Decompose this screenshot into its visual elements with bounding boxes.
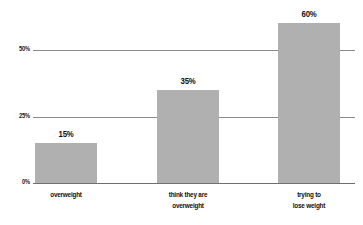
axis-baseline	[33, 183, 355, 184]
plot-area: 50% 25% 0% 15% 35% 60% overweight think …	[0, 0, 363, 225]
bar-chart: 50% 25% 0% 15% 35% 60% overweight think …	[0, 0, 363, 225]
bar-overweight	[35, 143, 97, 183]
ytick-label-25: 25%	[5, 113, 30, 120]
bar-trying-to-lose-weight	[278, 23, 340, 183]
category-label-think-they-are-overweight-line1: think they are	[169, 190, 208, 199]
category-label-overweight-line1: overweight	[50, 190, 82, 199]
category-label-trying-to-lose-weight-line2: lose weight	[271, 200, 347, 211]
ytick-wrap-0: 0%	[0, 179, 30, 187]
value-label-overweight: 15%	[41, 129, 92, 139]
category-label-overweight: overweight	[28, 189, 104, 200]
category-label-think-they-are-overweight-line2: overweight	[150, 200, 226, 211]
category-label-trying-to-lose-weight: trying to lose weight	[271, 189, 347, 211]
value-label-think-they-are-overweight: 35%	[163, 76, 214, 86]
category-label-think-they-are-overweight: think they are overweight	[150, 189, 226, 211]
bar-think-they-are-overweight	[157, 90, 219, 183]
value-label-trying-to-lose-weight: 60%	[284, 9, 335, 19]
category-label-trying-to-lose-weight-line1: trying to	[297, 190, 321, 199]
ytick-wrap-50: 50%	[0, 46, 30, 54]
ytick-label-0: 0%	[5, 179, 30, 186]
ytick-wrap-25: 25%	[0, 113, 30, 121]
ytick-label-50: 50%	[5, 46, 30, 53]
